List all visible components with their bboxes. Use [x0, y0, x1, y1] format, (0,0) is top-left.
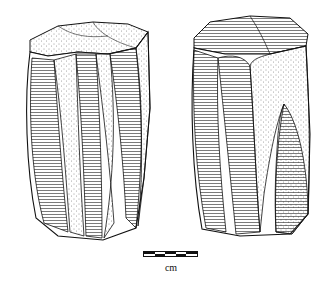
scale-segment: [186, 254, 197, 256]
lithic-illustration: cm: [0, 0, 332, 285]
scale-segment: [144, 254, 155, 256]
scale-bar: [143, 251, 198, 257]
core-view-left: [18, 18, 173, 243]
scale-segment: [155, 254, 166, 256]
scale-unit-label: cm: [158, 262, 184, 273]
scale-segment: [176, 254, 187, 256]
core-view-right: [180, 14, 325, 242]
scale-segment: [165, 254, 176, 256]
